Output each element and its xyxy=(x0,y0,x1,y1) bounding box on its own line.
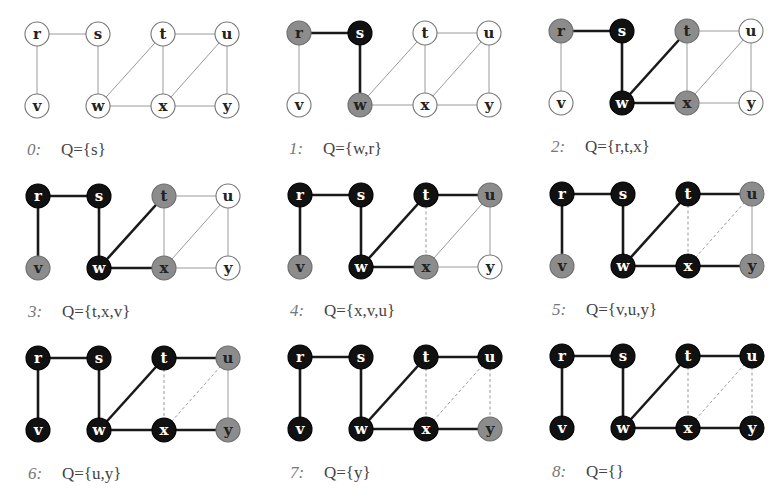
step-caption: 7:Q={y} xyxy=(290,463,371,483)
step-number: 2: xyxy=(551,137,585,157)
vertex-label: t xyxy=(161,349,168,367)
queue-contents: Q={u,y} xyxy=(62,464,121,483)
vertex-label: v xyxy=(33,421,44,439)
vertex-label: y xyxy=(746,94,757,112)
bfs-panel-step-3: rstuvwxy xyxy=(26,184,240,280)
vertex-label: t xyxy=(422,24,429,42)
edge-xu xyxy=(426,195,490,267)
vertex-label: v xyxy=(556,94,567,112)
tree-edge-wt xyxy=(622,31,687,103)
vertex-label: s xyxy=(619,347,627,365)
vertex-label: x xyxy=(160,259,170,277)
vertex-label: x xyxy=(422,258,432,276)
vertex-label: v xyxy=(295,420,306,438)
vertex-label: r xyxy=(296,186,305,204)
step-number: 7: xyxy=(290,463,324,483)
vertex-label: x xyxy=(422,420,432,438)
vertex-label: w xyxy=(616,419,631,437)
step-caption: 4:Q={x,v,u} xyxy=(290,301,395,321)
vertex-label: y xyxy=(222,97,233,115)
vertex-label: r xyxy=(34,187,43,205)
queue-contents: Q={v,u,y} xyxy=(586,300,657,319)
nontree-edge-xu xyxy=(164,358,228,430)
vertex-label: w xyxy=(354,258,369,276)
vertex-label: s xyxy=(356,24,364,42)
vertex-label: s xyxy=(357,348,365,366)
vertex-label: r xyxy=(33,25,42,43)
vertex-label: s xyxy=(95,187,103,205)
vertex-label: r xyxy=(557,22,566,40)
step-number: 0: xyxy=(27,140,61,160)
bfs-panel-step-5: rstuvwxy xyxy=(550,182,764,278)
vertex-label: x xyxy=(684,257,694,275)
edge-xu xyxy=(425,33,489,105)
step-caption: 6:Q={u,y} xyxy=(28,464,121,484)
vertex-label: s xyxy=(94,25,102,43)
vertex-label: x xyxy=(421,96,431,114)
step-number: 1: xyxy=(289,139,323,159)
step-number: 6: xyxy=(28,464,62,484)
vertex-label: u xyxy=(747,347,758,365)
queue-contents: Q={x,v,u} xyxy=(324,301,395,320)
vertex-label: t xyxy=(685,185,692,203)
bfs-graphs-canvas: rstuvwxyrstuvwxyrstuvwxyrstuvwxyrstuvwxy… xyxy=(0,0,779,502)
vertex-label: x xyxy=(684,419,694,437)
vertex-label: r xyxy=(295,24,304,42)
nontree-edge-xu xyxy=(688,194,752,266)
vertex-label: u xyxy=(485,186,496,204)
vertex-label: t xyxy=(160,25,167,43)
vertex-label: w xyxy=(354,420,369,438)
nontree-edge-xu xyxy=(426,357,490,429)
vertex-label: v xyxy=(295,258,306,276)
step-number: 8: xyxy=(552,462,586,482)
vertex-label: u xyxy=(747,185,758,203)
vertex-label: v xyxy=(294,96,305,114)
bfs-panel-step-4: rstuvwxy xyxy=(288,183,502,279)
vertex-label: y xyxy=(747,419,758,437)
vertex-label: s xyxy=(357,186,365,204)
edge-wt xyxy=(360,33,425,105)
vertex-label: t xyxy=(684,22,691,40)
vertex-label: y xyxy=(485,258,496,276)
vertex-label: x xyxy=(683,94,693,112)
vertex-label: t xyxy=(685,347,692,365)
vertex-label: x xyxy=(159,97,169,115)
edge-xu xyxy=(687,31,751,103)
vertex-label: w xyxy=(353,96,368,114)
tree-edge-wt xyxy=(623,194,688,266)
vertex-label: y xyxy=(223,421,234,439)
step-caption: 8:Q={} xyxy=(552,462,624,482)
queue-contents: Q={s} xyxy=(61,140,106,159)
vertex-label: u xyxy=(746,22,757,40)
vertex-label: r xyxy=(558,185,567,203)
vertex-label: y xyxy=(747,257,758,275)
vertex-label: y xyxy=(484,96,495,114)
bfs-panel-step-8: rstuvwxy xyxy=(550,344,764,440)
step-caption: 2:Q={r,t,x} xyxy=(551,137,650,157)
bfs-panel-step-1: rstuvwxy xyxy=(287,21,501,117)
vertex-label: r xyxy=(558,347,567,365)
vertex-label: w xyxy=(616,257,631,275)
queue-contents: Q={r,t,x} xyxy=(585,137,650,156)
vertex-label: t xyxy=(423,348,430,366)
step-number: 3: xyxy=(28,302,62,322)
queue-contents: Q={} xyxy=(586,462,624,481)
bfs-figure: rstuvwxyrstuvwxyrstuvwxyrstuvwxyrstuvwxy… xyxy=(0,0,779,502)
nontree-edge-xu xyxy=(688,356,752,428)
edge-xu xyxy=(164,196,228,268)
vertex-label: s xyxy=(618,22,626,40)
vertex-label: s xyxy=(619,185,627,203)
step-number: 4: xyxy=(290,301,324,321)
vertex-label: t xyxy=(423,186,430,204)
vertex-label: v xyxy=(557,257,568,275)
queue-contents: Q={y} xyxy=(324,463,371,482)
vertex-label: v xyxy=(33,259,44,277)
vertex-label: u xyxy=(485,348,496,366)
vertex-label: y xyxy=(485,420,496,438)
vertex-label: t xyxy=(161,187,168,205)
queue-contents: Q={t,x,v} xyxy=(62,302,130,321)
vertex-label: u xyxy=(222,25,233,43)
vertex-label: w xyxy=(92,421,107,439)
vertex-label: u xyxy=(484,24,495,42)
tree-edge-wt xyxy=(361,357,426,429)
